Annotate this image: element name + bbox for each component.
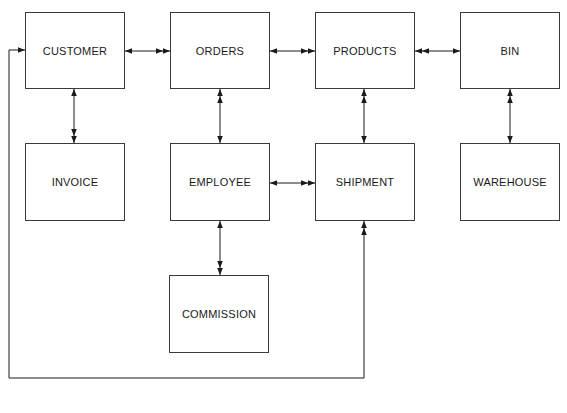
entity-customer: CUSTOMER [25,12,125,89]
entity-label: WAREHOUSE [473,176,547,188]
entity-products: PRODUCTS [315,12,415,89]
entity-label: SHIPMENT [336,176,394,188]
entity-commission: COMMISSION [169,275,269,353]
entity-warehouse: WAREHOUSE [460,143,560,221]
entity-label: COMMISSION [182,308,256,320]
entity-shipment: SHIPMENT [315,143,415,221]
entity-label: PRODUCTS [333,45,396,57]
entity-label: BIN [501,45,520,57]
entity-invoice: INVOICE [25,143,125,221]
entity-label: CUSTOMER [43,45,107,57]
entity-employee: EMPLOYEE [170,143,270,221]
entity-bin: BIN [460,12,560,89]
entity-label: INVOICE [52,176,99,188]
entity-label: ORDERS [196,45,244,57]
entity-label: EMPLOYEE [189,176,251,188]
entity-orders: ORDERS [170,12,270,89]
